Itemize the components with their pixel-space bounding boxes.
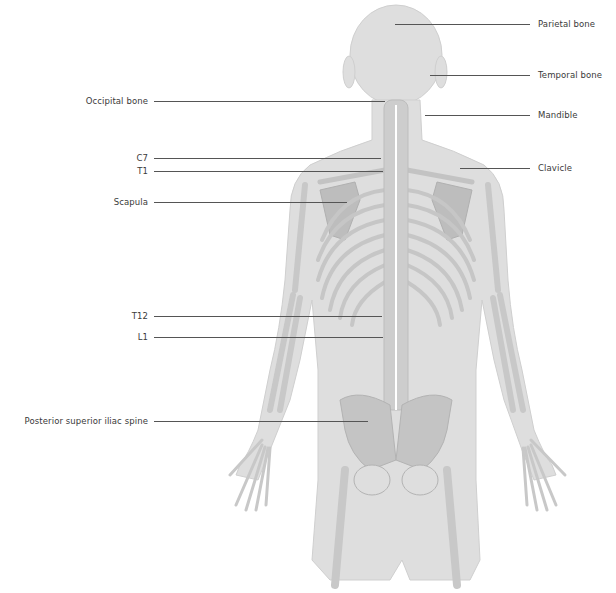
leader-parietal-bone [395, 24, 530, 25]
label-t12: T12 [132, 311, 148, 321]
leader-temporal-bone [430, 75, 530, 76]
leader-clavicle [460, 168, 530, 169]
leader-t12 [154, 316, 382, 317]
label-c7: C7 [136, 153, 148, 163]
label-posterior-superior-iliac-spine: Posterior superior iliac spine [25, 416, 148, 426]
label-scapula: Scapula [114, 197, 148, 207]
leader-c7 [154, 158, 381, 159]
label-clavicle: Clavicle [538, 163, 572, 173]
leader-l1 [154, 337, 383, 338]
leader-t1 [154, 171, 383, 172]
label-mandible: Mandible [538, 110, 577, 120]
label-t1: T1 [137, 166, 148, 176]
leader-posterior-superior-iliac-spine [154, 421, 368, 422]
label-l1: L1 [138, 332, 148, 342]
leader-scapula [154, 202, 347, 203]
label-temporal-bone: Temporal bone [538, 70, 602, 80]
leader-occipital-bone [154, 101, 385, 102]
label-occipital-bone: Occipital bone [86, 96, 148, 106]
leader-mandible [425, 115, 530, 116]
label-parietal-bone: Parietal bone [538, 19, 595, 29]
skeleton-illustration [0, 0, 616, 593]
